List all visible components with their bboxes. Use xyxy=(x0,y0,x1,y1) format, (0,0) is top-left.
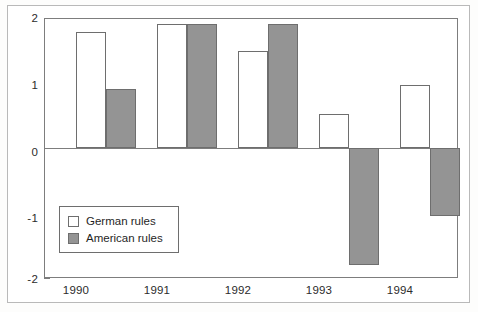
bar-german-1990[interactable] xyxy=(76,32,106,148)
y-tick-label-minus2: -2 xyxy=(12,274,38,286)
legend-label-german: German rules xyxy=(86,216,156,228)
x-tick-label-1993: 1993 xyxy=(284,285,354,297)
bar-german-1992[interactable] xyxy=(238,51,268,148)
y-tick-label-1: 1 xyxy=(12,80,38,92)
legend: German rules American rules xyxy=(59,206,179,253)
x-tick-label-1994: 1994 xyxy=(365,285,435,297)
chart-figure: 2 1 0 -1 -2 German rules xyxy=(0,0,478,312)
legend-swatch-american-icon xyxy=(68,233,79,244)
y-tick-label-minus1: -1 xyxy=(12,213,38,225)
bar-german-1994[interactable] xyxy=(400,85,430,148)
x-tick-label-1992: 1992 xyxy=(203,285,273,297)
legend-label-american: American rules xyxy=(86,233,163,245)
y-tick-label-2: 2 xyxy=(12,13,38,25)
legend-entry-german: German rules xyxy=(68,213,170,230)
legend-swatch-german-icon xyxy=(68,216,79,227)
y-tick-label-0: 0 xyxy=(12,147,38,159)
legend-entry-american: American rules xyxy=(68,230,170,247)
zero-baseline xyxy=(45,148,458,149)
x-tick-label-1990: 1990 xyxy=(41,285,111,297)
bar-german-1991[interactable] xyxy=(157,24,187,148)
bar-german-1993[interactable] xyxy=(319,114,349,148)
bar-american-1993[interactable] xyxy=(349,148,379,265)
y-axis-labels: 2 1 0 -1 -2 xyxy=(8,0,38,312)
bar-american-1994[interactable] xyxy=(430,148,460,216)
bar-american-1992[interactable] xyxy=(268,24,298,148)
x-tick-label-1991: 1991 xyxy=(122,285,192,297)
y-tick-mark-minus2 xyxy=(44,278,50,279)
bar-american-1991[interactable] xyxy=(187,24,217,148)
bar-american-1990[interactable] xyxy=(106,89,136,148)
